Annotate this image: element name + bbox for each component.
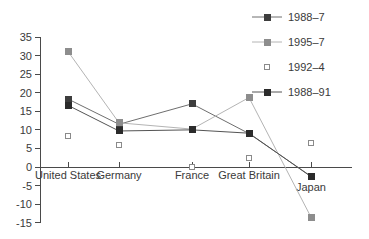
chart-root: 35302520151050-5-10-15United StatesGerma… [0,0,369,239]
y-tick-label: 0 [26,161,32,173]
y-tick-label: -10 [16,198,32,210]
x-axis-category-label: Germany [96,169,142,181]
data-point-marker [66,133,71,138]
chart-legend: 1988–71995–71992–41988–91 [252,11,331,98]
data-point-marker [116,120,122,126]
y-tick-label: 30 [20,50,32,62]
data-point-marker [308,214,314,220]
y-tick-label: 10 [20,124,32,136]
data-point-marker [308,174,314,180]
data-point-marker [247,156,252,161]
x-axis-category-label: Great Britain [218,169,280,181]
legend-item[interactable]: 1995–7 [252,36,325,48]
legend-label: 1988–7 [288,11,325,23]
series-markers [65,48,314,220]
y-tick-label: -15 [16,217,32,229]
data-point-marker [116,128,122,134]
data-point-marker [65,102,71,108]
y-tick-label: 35 [20,31,32,43]
legend-item[interactable]: 1992–4 [265,61,325,73]
y-tick-label: 5 [26,142,32,154]
legend-marker-swatch [264,14,270,20]
data-point-marker [309,140,314,145]
x-axis-category-label: Japan [296,181,326,193]
x-axis-category-label: United States [35,169,102,181]
line-chart: 35302520151050-5-10-15United StatesGerma… [0,0,369,239]
legend-label: 1992–4 [288,61,325,73]
series-lines [68,51,311,217]
legend-label: 1988–91 [288,86,331,98]
x-axis-category-label: France [175,169,209,181]
series-line [68,51,311,217]
legend-label: 1995–7 [288,36,325,48]
y-tick-label: 25 [20,68,32,80]
x-axis-category-labels: United StatesGermanyFranceGreat BritainJ… [35,169,326,193]
data-point-marker [65,48,71,54]
data-point-marker [246,130,252,136]
data-point-marker [189,101,195,107]
data-point-marker [65,96,71,102]
y-tick-label: 15 [20,105,32,117]
y-tick-label: -5 [22,180,32,192]
data-point-marker [246,95,252,101]
legend-item[interactable]: 1988–91 [252,86,331,98]
y-tick-label: 20 [20,87,32,99]
legend-item[interactable]: 1988–7 [252,11,325,23]
legend-marker-swatch [264,39,270,45]
legend-marker-swatch [265,65,270,70]
data-point-marker [190,164,195,169]
legend-marker-swatch [264,89,270,95]
data-point-marker [117,143,122,148]
data-point-marker [189,127,195,133]
